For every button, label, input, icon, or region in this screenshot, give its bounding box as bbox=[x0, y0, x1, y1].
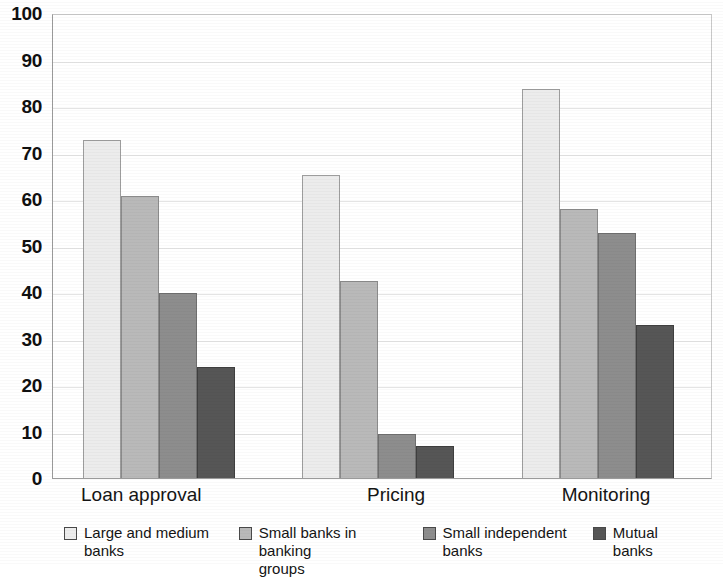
legend-swatch-icon bbox=[423, 527, 436, 540]
bar bbox=[121, 196, 159, 478]
bar bbox=[522, 89, 560, 478]
legend-item-small-independent-banks: Small independentbanks bbox=[423, 524, 579, 560]
bar bbox=[378, 434, 416, 478]
legend-item-large-and-medium-banks: Large and mediumbanks bbox=[64, 524, 225, 560]
bar bbox=[159, 293, 197, 478]
x-tick-label-loan-approval: Loan approval bbox=[53, 484, 291, 510]
legend-item-small-banks-in-banking-groups: Small banks in bankinggroups bbox=[239, 524, 409, 578]
bar bbox=[302, 175, 340, 478]
legend-item-mutual-banks: Mutual banks bbox=[593, 524, 700, 560]
bar bbox=[416, 446, 454, 478]
y-tick-label: 30 bbox=[21, 329, 42, 351]
bar bbox=[340, 281, 378, 478]
bar bbox=[83, 140, 121, 478]
bar bbox=[598, 233, 636, 478]
y-tick-label: 70 bbox=[21, 143, 42, 165]
y-tick-label: 100 bbox=[11, 3, 42, 25]
legend-swatch-icon bbox=[64, 527, 77, 540]
legend: Large and mediumbanks Small banks in ban… bbox=[64, 524, 714, 564]
y-tick-label: 40 bbox=[21, 282, 42, 304]
y-tick-label: 90 bbox=[21, 50, 42, 72]
bar-groups bbox=[53, 15, 711, 478]
x-tick-label-monitoring: Monitoring bbox=[501, 484, 711, 510]
legend-label: Mutual banks bbox=[613, 524, 700, 560]
y-tick-label: 20 bbox=[21, 375, 42, 397]
y-axis: 100 90 80 70 60 50 40 30 20 10 0 bbox=[0, 0, 48, 495]
legend-swatch-icon bbox=[239, 527, 252, 540]
y-tick-label: 10 bbox=[21, 422, 42, 444]
x-tick-label-pricing: Pricing bbox=[291, 484, 501, 510]
legend-label: Large and mediumbanks bbox=[84, 524, 209, 560]
legend-label: Small banks in bankinggroups bbox=[259, 524, 409, 578]
x-axis-labels: Loan approval Pricing Monitoring bbox=[53, 484, 711, 510]
bar bbox=[636, 325, 674, 478]
bar-group-monitoring bbox=[492, 15, 711, 478]
y-tick-label: 60 bbox=[21, 189, 42, 211]
bar-group-loan-approval bbox=[53, 15, 272, 478]
y-tick-label: 80 bbox=[21, 96, 42, 118]
bar bbox=[560, 209, 598, 478]
y-tick-label: 50 bbox=[21, 236, 42, 258]
legend-label: Small independentbanks bbox=[443, 524, 567, 560]
legend-swatch-icon bbox=[593, 527, 606, 540]
bar-group-pricing bbox=[272, 15, 491, 478]
bar bbox=[197, 367, 235, 478]
y-tick-label: 0 bbox=[32, 468, 42, 490]
